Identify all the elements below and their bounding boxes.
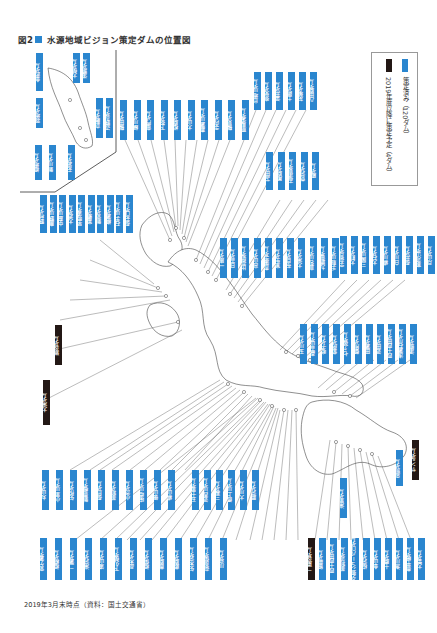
dam-label-hokkaido-row: 夕張シューパロダム bbox=[352, 538, 359, 580]
dam-label-hokkaido-row: 十勝ダム bbox=[385, 538, 392, 580]
dam-label-lower-middle-row: 藤原ダム bbox=[175, 538, 182, 580]
dam-label-middle-row: 手取川ダム bbox=[332, 238, 339, 278]
dam-label-lower-left-row: 徳山ダム bbox=[154, 470, 161, 510]
dam-label-lower-middle-row: 浦山ダム bbox=[100, 538, 107, 580]
legend-label-planned: 2019年度以降に策定予定（4ダム） bbox=[384, 77, 393, 175]
dam-label-hokkaido-side: 忠別ダム bbox=[396, 450, 403, 486]
dam-label-hokkaido-side: サンルダム bbox=[412, 440, 419, 480]
dam-label-hokkaido-row: 豊平峡ダム bbox=[407, 538, 414, 580]
dam-label-right-middle-group: 田瀬ダム bbox=[366, 324, 373, 364]
dam-label-lower-middle-row: 薗原ダム bbox=[160, 538, 167, 580]
dam-label-right-upper-group: 月山ダム bbox=[428, 236, 435, 274]
dam-label-right-middle-group: 釜房ダム bbox=[333, 324, 340, 364]
dam-label-top-right-group: 土師ダム bbox=[288, 72, 295, 110]
dam-label-left-group: 大渡ダム bbox=[69, 195, 76, 233]
dam-label-right-middle-group: 津軽ダム bbox=[410, 324, 417, 364]
dam-label-top-right-group: 温井ダム bbox=[276, 72, 283, 110]
dam-label-right-upper-group: 長井ダム bbox=[406, 236, 413, 274]
dam-label-left-group: 石手川ダム bbox=[116, 195, 123, 233]
dam-label-lower-middle-row: 相模ダム bbox=[55, 538, 62, 580]
dam-label-inset: 福地ダム bbox=[35, 145, 42, 180]
dam-label-hokkaido-row: 金山ダム bbox=[374, 538, 381, 580]
dam-label-middle-row: 比奈知ダム bbox=[242, 238, 249, 278]
dam-label-inset: 倉敷ダム bbox=[96, 98, 103, 138]
dam-label-hokkaido-row: 四十四田ダム bbox=[330, 538, 337, 580]
dam-label-hokkaido-row: 二風谷ダム bbox=[308, 538, 315, 580]
dam-label-top-right-group: 弥栄ダム bbox=[265, 72, 272, 110]
dam-label-lower-middle-row: 二瀬ダム bbox=[70, 538, 77, 580]
dam-label-top-row: 鶴見ダム bbox=[228, 100, 235, 140]
dam-label-middle-row: 日吉ダム bbox=[231, 238, 238, 278]
dam-label-lower-left-row: 矢作ダム bbox=[70, 470, 77, 510]
dam-label-left-group: 野村ダム bbox=[40, 195, 47, 233]
dam-label-left-group: 中筋川ダム bbox=[59, 195, 66, 233]
dam-label-upper-middle-group: 菅沢ダム bbox=[301, 152, 308, 190]
dam-label-left-group: 新宮ダム bbox=[97, 195, 104, 233]
dam-label-hokkaido-row: 桂沢ダム bbox=[363, 538, 370, 580]
dam-label-lower-middle-row: 下久保ダム bbox=[115, 538, 122, 580]
dam-label-lower-left-row: 小里川ダム bbox=[56, 470, 63, 510]
dam-label-top-row: 耶馬溪ダム bbox=[242, 100, 249, 140]
dam-label-inset: 安波ダム bbox=[68, 145, 75, 180]
dam-label-lower-middle-row: 川治ダム bbox=[220, 538, 227, 580]
legend-swatch-completed bbox=[402, 59, 408, 72]
dam-label-left-planned: 猿谷ダム bbox=[55, 325, 62, 365]
dam-label-left-group: 柳瀬ダム bbox=[107, 195, 114, 233]
dam-label-hokkaido-row: 大雪ダム bbox=[418, 538, 425, 580]
dam-label-right-middle-group: 玉川ダム bbox=[300, 324, 307, 364]
dam-label-lower-left-row: 新豊根ダム bbox=[84, 470, 91, 510]
dam-label-lower-right-row: 五十里ダム bbox=[192, 470, 199, 510]
dam-label-right-middle-group: 御所ダム bbox=[355, 324, 362, 364]
dam-label-right-middle-group: 湯田ダム bbox=[377, 324, 384, 364]
legend: 策定済み（120ダム） 2019年度以降に策定予定（4ダム） bbox=[371, 52, 418, 186]
dam-label-top-row: 大山ダム bbox=[188, 100, 195, 140]
dam-label-inset: 羽地ダム bbox=[36, 98, 43, 128]
dam-label-middle-row: 一庫ダム bbox=[220, 238, 227, 278]
dam-label-lower-left-row: 味噌川ダム bbox=[140, 470, 147, 510]
dam-label-hokkaido-row: 漁川ダム bbox=[396, 538, 403, 580]
dam-label-lower-middle-row: 品木ダム bbox=[130, 538, 137, 580]
dam-label-middle-row: 大滝ダム bbox=[298, 238, 305, 278]
dam-label-lower-right-row: 湯西川ダム bbox=[204, 470, 211, 510]
dam-label-middle-row: 九頭竜ダム bbox=[321, 238, 328, 278]
dam-label-inset: 新川ダム bbox=[49, 145, 56, 180]
dam-label-left-group: 長安口ダム bbox=[126, 195, 133, 233]
dam-label-lower-middle-row: 相俣ダム bbox=[145, 538, 152, 580]
dam-label-right-middle-group: 七ヶ宿ダム bbox=[344, 324, 351, 364]
dam-label-middle-row: 真名川ダム bbox=[310, 238, 317, 278]
dam-label-lower-middle-row: 奈良俣ダム bbox=[205, 538, 212, 580]
dam-label-right-middle-group: 森吉山ダム bbox=[311, 324, 318, 364]
dam-label-lower-left-row: 小渋ダム bbox=[126, 470, 133, 510]
dam-label-middle-row: 高山ダム bbox=[254, 238, 261, 278]
dam-label-top-row: 松原ダム bbox=[174, 100, 181, 140]
dam-label-top-row: 下筌ダム bbox=[161, 100, 168, 140]
dam-label-right-upper-group: 白川ダム bbox=[395, 236, 402, 274]
dam-label-lower-middle-row: 宮ケ瀬ダム bbox=[40, 538, 47, 580]
dam-label-inset: 漢那ダム bbox=[83, 53, 90, 83]
dam-label-upper-middle-group: 志津見ダム bbox=[289, 152, 296, 190]
dam-label-lower-middle-row: 滝沢ダム bbox=[85, 538, 92, 580]
dam-label-top-row: 竜門ダム bbox=[147, 100, 154, 140]
dam-label-right-upper-group: 大町ダム bbox=[351, 236, 358, 274]
dam-label-lower-right-row: 三春ダム bbox=[216, 470, 223, 510]
dam-label-upper-middle-group: 尾原ダム bbox=[278, 152, 285, 190]
dam-label-hokkaido-row: 美利河ダム bbox=[341, 538, 348, 580]
dam-label-lower-right-row: 胆沢ダム bbox=[252, 470, 259, 510]
dam-label-middle-row: 布目ダム bbox=[287, 238, 294, 278]
dam-label-right-upper-group: 横川ダム bbox=[384, 236, 391, 274]
dam-label-right-middle-group: 四十四田ダム bbox=[388, 324, 395, 364]
dam-label-upper-middle-group: 殿ダム bbox=[312, 152, 319, 190]
dam-label-top-row: 寺内ダム bbox=[215, 100, 222, 140]
dam-label-right-middle-group: 鳴子ダム bbox=[322, 324, 329, 364]
dam-label-inset: 辺野喜ダム bbox=[106, 98, 113, 138]
dam-label-top-right-group: 灰塚ダム bbox=[299, 72, 306, 110]
dam-label-lower-left-row: 横山ダム bbox=[168, 470, 175, 510]
dam-label-right-upper-group: 寒河江ダム bbox=[417, 236, 424, 274]
dam-label-upper-middle-group: 苫田ダム bbox=[266, 152, 273, 190]
dam-label-left-group: 鹿野川ダム bbox=[50, 195, 57, 233]
dam-label-inset: 大保ダム bbox=[73, 53, 80, 83]
dam-label-right-upper-group: 大石ダム bbox=[373, 236, 380, 274]
dam-label-lower-right-row: 摺上川ダム bbox=[228, 470, 235, 510]
dam-label-hokkaido-row: 留萌ダム bbox=[319, 538, 326, 580]
dam-label-middle-row: 室生ダム bbox=[276, 238, 283, 278]
